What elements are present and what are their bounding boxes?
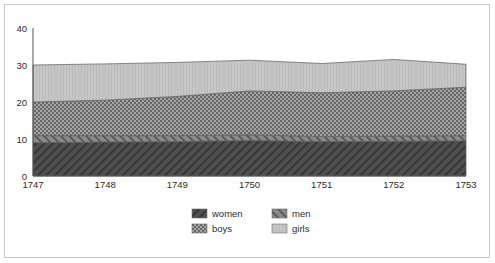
area-band-women [33,140,466,176]
y-tick-label: 30 [16,60,27,71]
x-tick-labels: 1747174817491750175117521753 [22,179,476,190]
chart-svg: 010203040 1747174817491750175117521753 w… [0,0,495,263]
legend-swatch-girls [272,224,287,233]
x-tick-label: 1749 [167,179,188,190]
y-tick-label: 10 [16,134,27,145]
x-tick-label: 1752 [383,179,404,190]
x-tick-label: 1751 [311,179,332,190]
legend-label-women: women [211,208,243,219]
legend-swatch-men [272,209,287,218]
series-areas [33,59,466,176]
legend-label-boys: boys [212,223,232,234]
x-tick-label: 1750 [239,179,260,190]
y-tick-label: 20 [16,97,27,108]
chart-legend: womenmenboysgirls [192,208,310,234]
x-tick-label: 1747 [22,179,43,190]
y-tick-label: 40 [16,23,27,34]
stacked-area-chart: 010203040 1747174817491750175117521753 w… [0,0,495,263]
legend-swatch-women [192,209,207,218]
x-tick-label: 1753 [455,179,476,190]
y-tick-labels: 010203040 [16,23,27,182]
x-tick-label: 1748 [95,179,116,190]
legend-label-girls: girls [292,223,310,234]
legend-label-men: men [292,208,310,219]
legend-swatch-boys [192,224,207,233]
